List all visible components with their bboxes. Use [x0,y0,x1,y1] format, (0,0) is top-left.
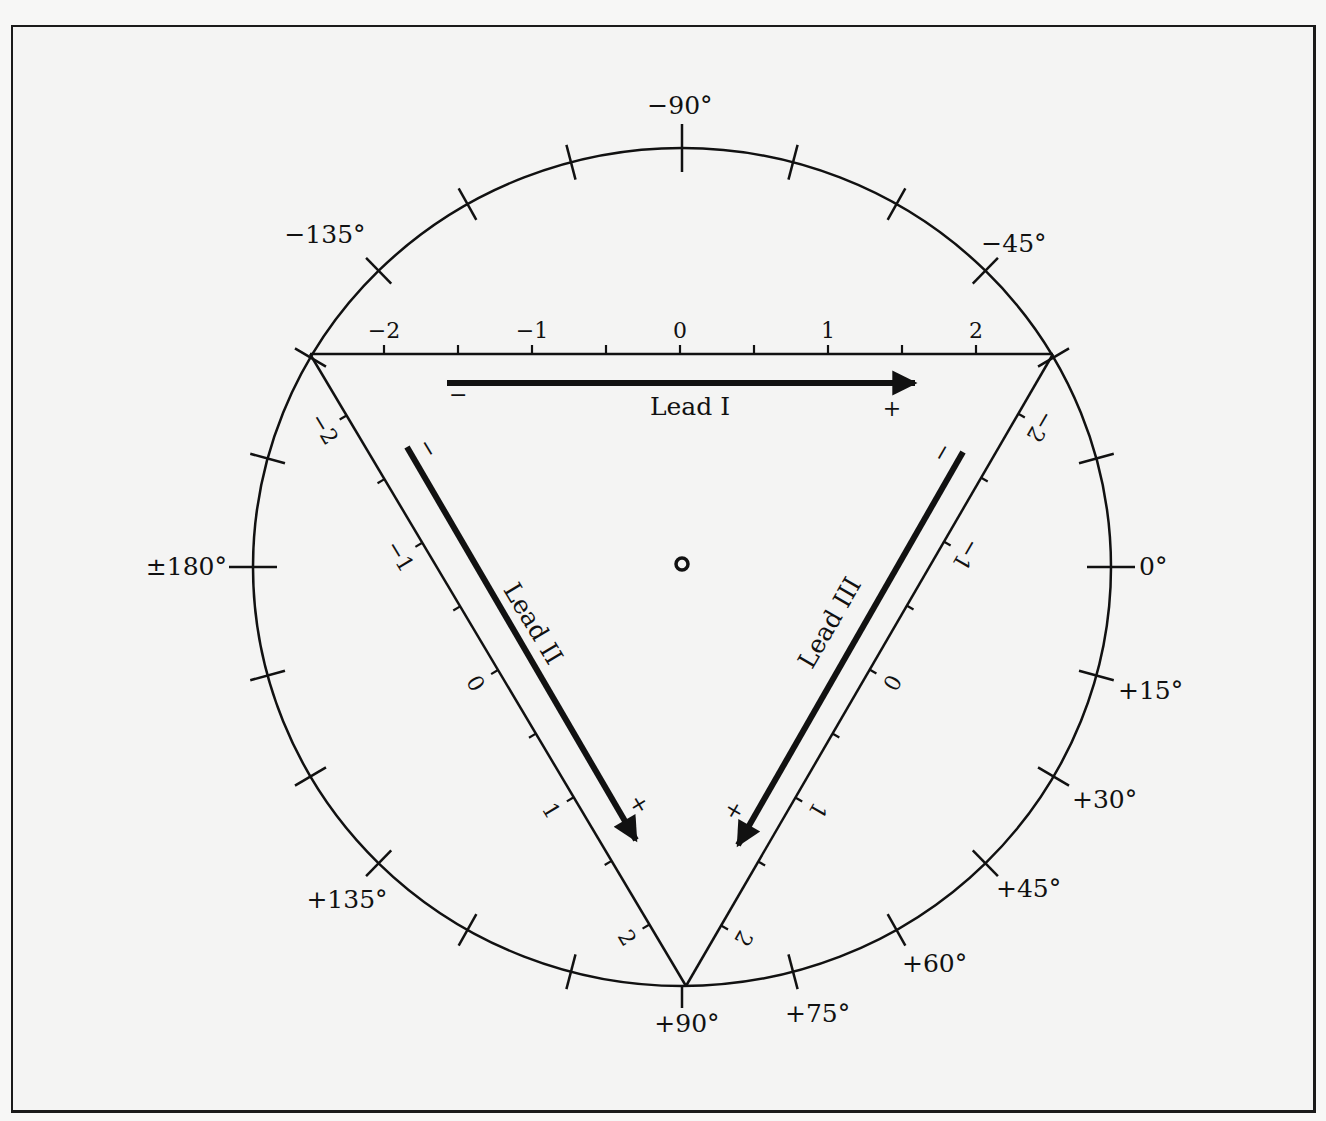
scale-tick [605,861,612,865]
scale-label: −1 [947,534,985,575]
scale-label: −1 [381,536,419,577]
label-plus15: +15° [1118,676,1183,705]
scale-label: 1 [537,798,566,823]
degree-tick [1038,348,1069,366]
degree-tick [888,188,906,219]
label-180: ±180° [146,552,227,581]
scale-tick [643,925,650,929]
scale-tick [491,670,498,674]
degree-labels: −90° −135° −45° ±180° 0° +15° +30° +45° … [146,91,1183,1038]
lead1-label: Lead I [650,392,730,421]
lead2-minus: − [413,434,444,463]
lead2-arrow [407,447,636,840]
label-plus60: +60° [902,949,967,978]
scale-label: 2 [729,926,758,951]
scale-ticks [340,345,1025,929]
scale-label: 0 [878,670,907,695]
scale-tick [795,797,802,801]
lead3-plus: + [718,796,749,824]
scale-tick [1018,414,1025,418]
scale-tick [415,543,422,547]
degree-tick [1038,767,1069,785]
lead3-minus: − [926,438,957,466]
scale-label: −2 [1021,406,1059,447]
scale-label: 2 [969,318,983,343]
label-plus75: +75° [785,999,850,1028]
lead1-plus: + [883,396,901,421]
scale-tick [758,861,765,865]
scale-tick [567,797,574,801]
label-plus45: +45° [996,874,1061,903]
origin-circle [676,558,688,570]
label-minus45: −45° [981,229,1046,258]
scale-label: 2 [613,925,642,950]
label-plus90: +90° [654,1009,719,1038]
scale-label: 0 [673,318,687,343]
degree-tick [459,188,477,219]
lead3-arrow [738,452,963,845]
scale-tick [832,733,839,737]
lead1-minus: − [449,382,467,407]
degree-tick [459,914,477,945]
scale-label: −1 [516,318,548,343]
scale-label: 1 [803,798,832,823]
scale-label: 0 [461,671,490,696]
scale-tick [378,479,385,483]
scale-tick [529,734,536,738]
degree-tick [295,767,326,785]
scale-tick [907,606,914,610]
label-plus135: +135° [306,885,387,914]
scale-tick [870,670,877,674]
scale-label: −2 [305,408,343,449]
label-minus135: −135° [284,220,365,249]
label-minus90: −90° [647,91,712,120]
scale-tick [981,478,988,482]
degree-tick [888,914,906,945]
scale-label: 1 [821,318,835,343]
scale-tick [340,415,347,419]
scale-tick [721,925,728,929]
lead3-label: Lead III [792,572,867,673]
scale-tick [944,542,951,546]
lead2-plus: + [624,790,655,819]
label-plus30: +30° [1072,785,1137,814]
einthoven-diagram: −2−1012−2−1012−2−1012 − + − + − + Lead I… [0,0,1326,1121]
scale-tick [453,606,460,610]
degree-tick [295,348,326,366]
scale-label: −2 [368,318,400,343]
label-0: 0° [1139,552,1167,581]
